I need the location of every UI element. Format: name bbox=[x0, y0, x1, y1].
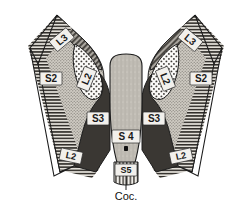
coccyx-caption: Coc. bbox=[115, 190, 138, 202]
label-s3-right: S3 bbox=[143, 112, 165, 125]
label-s2-left: S2 bbox=[40, 72, 62, 85]
label-s3-left: S3 bbox=[87, 112, 109, 125]
label-s3-right-text: S3 bbox=[148, 113, 161, 124]
label-s4-center: S 4 bbox=[112, 130, 140, 143]
label-s5-coccyx: S5 bbox=[115, 164, 137, 176]
label-s2-right-text: S2 bbox=[195, 73, 208, 84]
label-s3-left-text: S3 bbox=[92, 113, 105, 124]
sacral-dermatome-diagram: L3 L3 S2 S2 L2 L2 S3 bbox=[0, 0, 252, 207]
label-l2-band-left-text: L2 bbox=[65, 150, 77, 162]
label-s2-left-text: S2 bbox=[45, 73, 58, 84]
label-l2-band-right-text: L2 bbox=[175, 150, 187, 162]
label-s4-center-text: S 4 bbox=[118, 131, 133, 142]
midline-dot-marker bbox=[124, 146, 128, 151]
label-s5-coccyx-text: S5 bbox=[120, 165, 131, 175]
label-s2-right: S2 bbox=[190, 72, 212, 85]
anatomical-figure: L3 L3 S2 S2 L2 L2 S3 bbox=[0, 0, 252, 207]
